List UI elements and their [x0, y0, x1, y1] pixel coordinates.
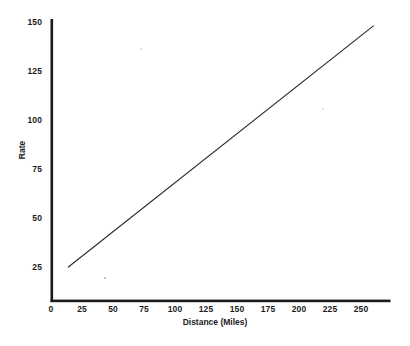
- x-tick-label-75: 75: [139, 304, 149, 314]
- x-tick-label-250: 250: [354, 304, 368, 314]
- x-tick-label-100: 100: [168, 304, 182, 314]
- x-axis-line: [51, 300, 391, 303]
- x-tick-label-225: 225: [323, 304, 337, 314]
- y-tick-label-125: 125: [10, 66, 42, 76]
- scan-speck: [104, 277, 106, 279]
- x-tick-label-0: 0: [49, 304, 54, 314]
- x-tick-label-50: 50: [108, 304, 118, 314]
- plot-area: [0, 0, 410, 346]
- scan-speck: [322, 108, 324, 110]
- chart-container: 150 125 100 75 50 25 0 25 50 75 100 125 …: [0, 0, 410, 346]
- x-tick-label-175: 175: [261, 304, 275, 314]
- x-tick-label-125: 125: [199, 304, 213, 314]
- x-tick-label-200: 200: [292, 304, 306, 314]
- y-tick-label-100: 100: [10, 115, 42, 125]
- y-axis-line: [51, 19, 54, 302]
- y-tick-label-50: 50: [10, 213, 42, 223]
- y-tick-label-25: 25: [10, 262, 42, 272]
- x-axis-title: Distance (Miles): [183, 317, 248, 327]
- y-axis-title: Rate: [17, 141, 27, 159]
- series-line: [68, 26, 373, 267]
- x-tick-label-25: 25: [77, 304, 87, 314]
- y-tick-label-150: 150: [10, 17, 42, 27]
- scan-speck: [140, 48, 142, 50]
- x-tick-label-150: 150: [230, 304, 244, 314]
- y-tick-label-75: 75: [10, 164, 42, 174]
